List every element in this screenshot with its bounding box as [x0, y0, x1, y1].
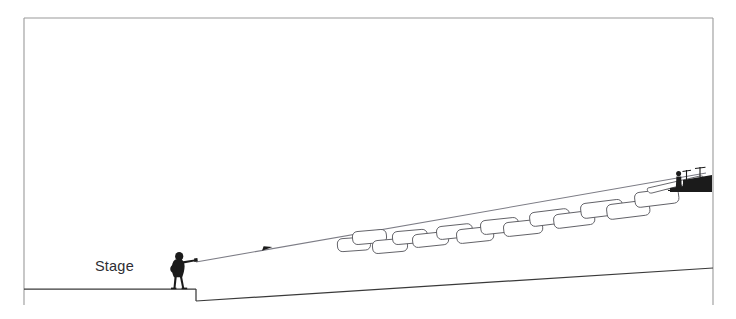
- foh-platform-block: [683, 175, 712, 192]
- performer-leg-front: [180, 276, 185, 289]
- foh-mast-crossbar-left: [683, 170, 692, 171]
- stage-label: Stage: [95, 258, 134, 274]
- performer-foot-front: [182, 288, 188, 290]
- foh-mast-crossbar-right: [695, 167, 706, 168]
- performer-foot-back: [171, 288, 176, 290]
- performer-arm: [181, 259, 195, 263]
- raked-floor-line: [196, 268, 713, 301]
- diagram-canvas: Stage: [0, 0, 736, 319]
- performer-guitar: [170, 265, 177, 273]
- performer-leg-back: [173, 276, 176, 289]
- foh-engineer-head: [676, 171, 681, 176]
- foh-engineer-body: [676, 177, 682, 189]
- sound-coverage-diagram: Stage: [0, 0, 736, 319]
- coverage-box-chain: [337, 176, 704, 254]
- performer-hand: [194, 258, 198, 262]
- front-of-house-silhouette: [668, 167, 712, 192]
- performer-silhouette-icon: [170, 252, 198, 289]
